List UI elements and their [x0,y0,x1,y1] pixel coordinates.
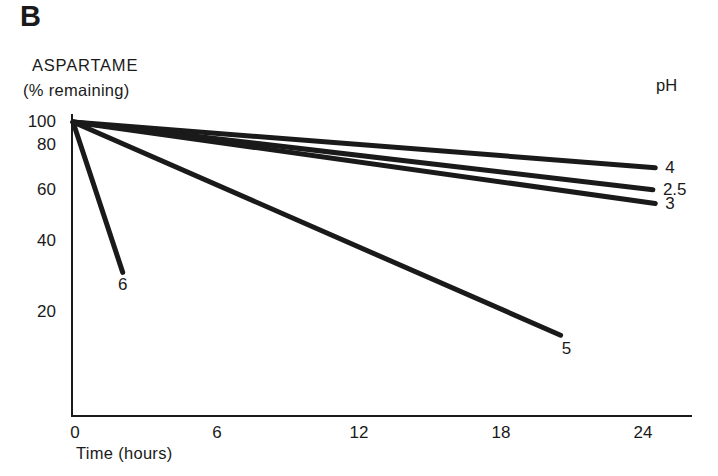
y-tick-label: 80 [37,135,56,154]
y-tick-label: 100 [28,112,56,131]
x-tick-label: 24 [634,423,653,442]
y-tick-label: 20 [37,302,56,321]
line-chart: 100806040200612182442.5365 [0,0,718,476]
x-tick-label: 12 [350,423,369,442]
series-label-ph-6: 6 [118,275,127,294]
x-tick-label: 18 [492,423,511,442]
series-label-ph-4: 4 [665,158,674,177]
series-line-ph-6 [73,122,123,272]
series-label-ph-5: 5 [562,339,571,358]
series-label-ph-3: 3 [665,194,674,213]
y-tick-label: 60 [37,180,56,199]
x-tick-label: 0 [70,423,79,442]
figure-panel: B ASPARTAME (% remaining) pH Time (hours… [0,0,718,476]
x-tick-label: 6 [212,423,221,442]
y-tick-label: 40 [37,231,56,250]
